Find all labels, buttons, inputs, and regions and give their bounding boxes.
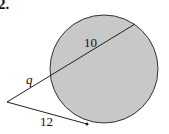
tangent-point [86, 123, 89, 126]
label-internal-segment: 10 [84, 35, 97, 50]
label-tangent-segment: 12 [40, 114, 53, 129]
circle [50, 15, 158, 123]
label-external-segment: q [26, 72, 33, 87]
secant-tangent-diagram: 10 q 12 [0, 0, 169, 134]
